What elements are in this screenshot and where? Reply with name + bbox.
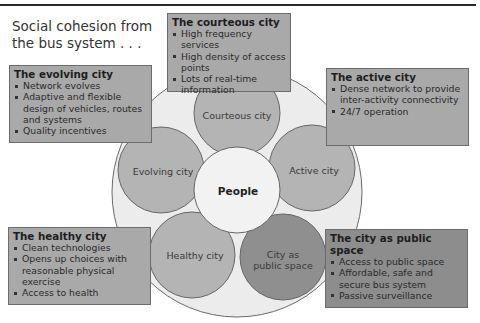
bullet-item: Opens up choices with reasonable physica… bbox=[13, 253, 146, 287]
bullet-item: Network evolves bbox=[14, 80, 147, 91]
label-courteous: Courteous city bbox=[203, 110, 272, 121]
box-active-city: The active city Dense network to provide… bbox=[326, 68, 469, 146]
box-title: The city as public space bbox=[330, 232, 463, 256]
box-public-space-city: The city as public space Access to publi… bbox=[325, 229, 468, 308]
bullet-item: 24/7 operation bbox=[331, 106, 464, 117]
bullet-item: Passive surveillance bbox=[330, 290, 463, 301]
box-title: The evolving city bbox=[14, 68, 147, 80]
label-active: Active city bbox=[289, 165, 339, 176]
label-healthy: Healthy city bbox=[166, 250, 223, 261]
bullet-item: Quality incentives bbox=[14, 125, 147, 136]
box-courteous-city: The courteous city High frequency servic… bbox=[167, 13, 291, 92]
bullet-item: Access to health bbox=[13, 287, 146, 298]
label-evolving: Evolving city bbox=[133, 166, 194, 177]
bullet-item: High density of access points bbox=[172, 51, 286, 74]
box-title: The active city bbox=[331, 71, 464, 83]
bullet-item: Clean technologies bbox=[13, 242, 146, 253]
label-public: City as public space bbox=[253, 249, 312, 271]
label-people: People bbox=[218, 186, 258, 197]
bullet-item: Dense network to provide inter-activity … bbox=[331, 83, 464, 106]
bullet-item: Adaptive and flexible design of vehicles… bbox=[14, 91, 147, 125]
bullet-item: Affordable, safe and secure bus system bbox=[330, 267, 463, 290]
box-healthy-city: The healthy city Clean technologies Open… bbox=[8, 227, 151, 305]
box-title: The healthy city bbox=[13, 230, 146, 242]
bullet-item: Access to public space bbox=[330, 256, 463, 267]
bullet-item: High frequency services bbox=[172, 28, 286, 51]
box-evolving-city: The evolving city Network evolves Adapti… bbox=[9, 65, 152, 143]
bullet-item: Lots of real-time information bbox=[172, 73, 286, 96]
box-title: The courteous city bbox=[172, 16, 286, 28]
